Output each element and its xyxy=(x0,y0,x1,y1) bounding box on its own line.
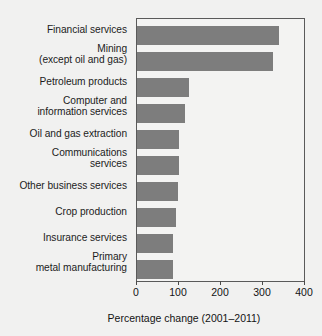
category-label: Other business services xyxy=(0,180,127,191)
category-label-line1: Primary xyxy=(0,251,127,262)
bar xyxy=(137,78,189,97)
axis-tick-label: 300 xyxy=(253,286,271,298)
axis-tick-label: 100 xyxy=(169,286,187,298)
axis-tick xyxy=(136,281,137,285)
x-axis-title: Percentage change (2001–2011) xyxy=(0,312,322,324)
axis-tick-label: 200 xyxy=(211,286,229,298)
category-label-line1: Crop production xyxy=(0,206,127,217)
bar xyxy=(137,182,178,201)
axis-tick-label: 400 xyxy=(295,286,313,298)
category-label: Computer and information services xyxy=(0,95,127,118)
category-label: Communications services xyxy=(0,147,127,170)
bar xyxy=(137,156,179,175)
category-label-line2: information services xyxy=(0,106,127,117)
plot-area xyxy=(136,18,305,282)
axis-tick-label: 0 xyxy=(133,286,139,298)
bar xyxy=(137,26,279,45)
axis-tick xyxy=(304,281,305,285)
category-label: Financial services xyxy=(0,24,127,35)
category-label-line1: Computer and xyxy=(0,95,127,106)
category-labels: Financial services Mining (except oil an… xyxy=(0,18,131,280)
bar xyxy=(137,234,173,253)
bar xyxy=(137,260,173,279)
x-axis: 0 100 200 300 400 xyxy=(136,281,305,282)
category-label-line1: Insurance services xyxy=(0,232,127,243)
category-label-line2: metal manufacturing xyxy=(0,262,127,273)
category-label: Mining (except oil and gas) xyxy=(0,43,127,66)
category-label-line1: Oil and gas extraction xyxy=(0,128,127,139)
bar-chart: Financial services Mining (except oil an… xyxy=(0,0,322,336)
bar xyxy=(137,104,185,123)
bar xyxy=(137,52,273,71)
axis-tick xyxy=(262,281,263,285)
category-label-line1: Mining xyxy=(0,43,127,54)
category-label: Oil and gas extraction xyxy=(0,128,127,139)
axis-tick xyxy=(220,281,221,285)
category-label-line2: (except oil and gas) xyxy=(0,54,127,65)
bar xyxy=(137,208,176,227)
category-label-line2: services xyxy=(0,158,127,169)
category-label-line1: Other business services xyxy=(0,180,127,191)
category-label: Petroleum products xyxy=(0,76,127,87)
category-label-line1: Communications xyxy=(0,147,127,158)
category-label: Insurance services xyxy=(0,232,127,243)
axis-tick xyxy=(178,281,179,285)
category-label-line1: Financial services xyxy=(0,24,127,35)
category-label: Primary metal manufacturing xyxy=(0,251,127,274)
category-label: Crop production xyxy=(0,206,127,217)
x-axis-title-text: Percentage change (2001–2011) xyxy=(108,312,261,324)
bar xyxy=(137,130,179,149)
category-label-line1: Petroleum products xyxy=(0,76,127,87)
